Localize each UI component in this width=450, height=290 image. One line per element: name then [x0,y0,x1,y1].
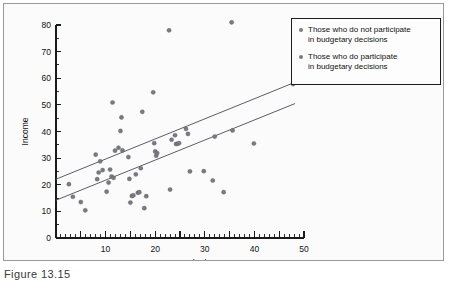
y-tick-label: 60 [42,73,52,83]
figure-container: 01020304050607080 1020304050 Income Year… [0,0,450,290]
y-tick-label: 30 [42,153,52,163]
data-point [169,138,173,142]
trend-lines [56,82,295,200]
x-tick-label: 30 [200,244,210,254]
lower-fit-line [56,104,295,201]
data-point [97,170,101,174]
data-point [155,151,159,155]
data-point [173,133,177,137]
legend-item-non-participants: Those who do not participate in budgetar… [299,25,434,44]
upper-fit-line [56,82,295,179]
x-tick-label: 50 [299,244,309,254]
data-point [211,178,215,182]
data-point [144,194,148,198]
data-point [177,141,181,145]
data-point [126,155,130,159]
data-point [94,153,98,157]
y-tick-label: 80 [42,20,52,30]
y-tick-label: 20 [42,180,52,190]
data-point [188,169,192,173]
x-tick-label: 40 [250,244,260,254]
data-point [168,187,172,191]
data-point [252,141,256,145]
y-axis-ticks [56,25,61,238]
data-point [152,141,156,145]
data-point [140,110,144,114]
data-point [98,159,102,163]
data-point [106,181,110,185]
data-point [110,100,114,104]
data-point [134,172,138,176]
data-point [101,168,105,172]
data-point [120,148,124,152]
data-point [142,206,146,210]
data-point [116,146,120,150]
legend: Those who do not participate in budgetar… [291,18,441,85]
chart-frame: 01020304050607080 1020304050 Income Year… [3,3,444,261]
axes [56,25,304,238]
data-point [128,200,132,204]
y-tick-label: 40 [42,127,52,137]
data-point [202,169,206,173]
figure-caption: Figure 13.15 [4,268,71,280]
data-point [119,115,123,119]
data-point [213,134,217,138]
data-point [184,127,188,131]
data-point [137,190,141,194]
data-point [127,177,131,181]
y-axis-tick-labels: 01020304050607080 [42,20,52,243]
legend-item-label: Those who do participate in budgetary de… [308,52,397,71]
x-axis-tick-labels: 1020304050 [101,244,309,254]
data-point [222,190,226,194]
data-point [186,132,190,136]
data-points [67,20,295,212]
data-point [131,193,135,197]
data-point [113,149,117,153]
data-point [229,20,233,24]
x-axis-title: Years Worked [154,258,207,260]
data-point [139,166,143,170]
data-point [104,190,108,194]
data-point [118,129,122,133]
data-point [71,195,75,199]
data-point [79,200,83,204]
legend-marker-dot [299,28,303,32]
data-point [95,177,99,181]
data-point [67,182,71,186]
data-point [108,167,112,171]
y-tick-label: 0 [46,233,51,243]
data-point [230,128,234,132]
x-tick-label: 20 [150,244,160,254]
data-point [151,90,155,94]
legend-marker-dot [299,55,303,59]
x-tick-label: 10 [101,244,111,254]
y-tick-label: 50 [42,100,52,110]
data-point [167,28,171,32]
y-tick-label: 10 [42,206,52,216]
legend-item-label: Those who do not participate in budgetar… [308,25,411,44]
y-axis-title: Income [20,117,30,145]
data-point [83,208,87,212]
legend-item-participants: Those who do participate in budgetary de… [299,52,434,71]
x-axis-ticks [56,231,304,238]
y-tick-label: 70 [42,47,52,57]
data-point [111,176,115,180]
